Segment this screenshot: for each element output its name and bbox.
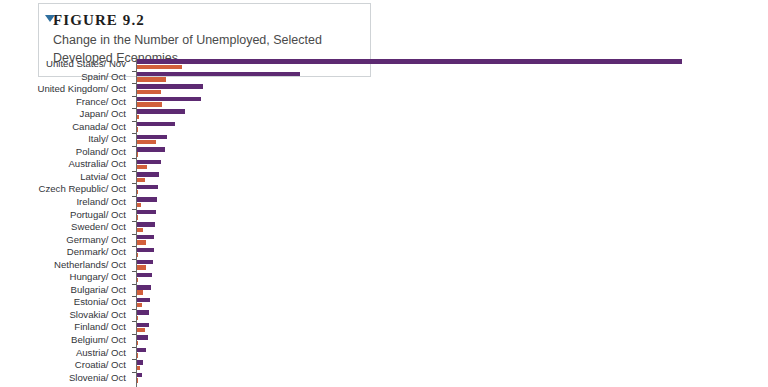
chart-row: Slovenia/ Oct <box>0 372 768 385</box>
bar-series-a <box>136 210 156 214</box>
category-label: Portugal/ Oct <box>0 209 132 222</box>
category-label: Australia/ Oct <box>0 158 132 171</box>
category-label: Latvia/ Oct <box>0 171 132 184</box>
bars-cell <box>136 158 768 171</box>
bars-cell <box>136 259 768 272</box>
bar-series-a <box>136 97 201 101</box>
bar-series-a <box>136 160 161 164</box>
category-label: Netherlands/ Oct <box>0 259 132 272</box>
bar-series-a <box>136 298 150 302</box>
bar-series-a <box>136 260 153 264</box>
bars-cell <box>136 309 768 322</box>
triangle-down-icon <box>45 15 55 22</box>
chart-row: Ireland/ Oct <box>0 196 768 209</box>
chart-row: Belgium/ Oct <box>0 334 768 347</box>
chart-rows: United States/ NovSpain/ OctUnited Kingd… <box>0 58 768 384</box>
chart-row: Poland/ Oct <box>0 146 768 159</box>
chart-row: Italy/ Oct <box>0 133 768 146</box>
bars-cell <box>136 284 768 297</box>
category-label: Japan/ Oct <box>0 108 132 121</box>
bar-series-a <box>136 135 167 139</box>
category-label: Denmark/ Oct <box>0 246 132 259</box>
category-label: Hungary/ Oct <box>0 271 132 284</box>
value-axis-line <box>136 58 137 387</box>
chart-row: Germany/ Oct <box>0 234 768 247</box>
category-label: Spain/ Oct <box>0 71 132 84</box>
chart-row: Slovakia/ Oct <box>0 309 768 322</box>
chart-row: Netherlands/ Oct <box>0 259 768 272</box>
chart-row: Austria/ Oct <box>0 347 768 360</box>
chart-row: Czech Republic/ Oct <box>0 183 768 196</box>
bars-cell <box>136 221 768 234</box>
bar-series-b <box>136 102 162 106</box>
bar-series-a <box>136 335 148 339</box>
bar-series-a <box>136 222 155 226</box>
bar-series-a <box>136 248 154 252</box>
bar-series-a <box>136 323 149 327</box>
bar-series-b <box>136 77 166 81</box>
category-label: Slovenia/ Oct <box>0 372 132 385</box>
category-label: Austria/ Oct <box>0 347 132 360</box>
category-label: Germany/ Oct <box>0 234 132 247</box>
category-label: Sweden/ Oct <box>0 221 132 234</box>
bars-cell <box>136 246 768 259</box>
bars-cell <box>136 296 768 309</box>
chart-row: Canada/ Oct <box>0 121 768 134</box>
category-label: Belgium/ Oct <box>0 334 132 347</box>
category-label: Ireland/ Oct <box>0 196 132 209</box>
bars-cell <box>136 183 768 196</box>
bar-series-a <box>136 273 152 277</box>
category-label: Estonia/ Oct <box>0 296 132 309</box>
bar-series-a <box>136 348 146 352</box>
chart-row: Finland/ Oct <box>0 321 768 334</box>
bars-cell <box>136 133 768 146</box>
bar-series-a <box>136 59 682 63</box>
category-label: United States/ Nov <box>0 58 132 71</box>
bar-series-a <box>136 185 158 189</box>
bar-chart: United States/ NovSpain/ OctUnited Kingd… <box>0 58 768 387</box>
bars-cell <box>136 209 768 222</box>
bar-series-b <box>136 165 147 169</box>
category-label: Italy/ Oct <box>0 133 132 146</box>
bars-cell <box>136 83 768 96</box>
bars-cell <box>136 359 768 372</box>
bar-series-a <box>136 147 165 151</box>
bars-cell <box>136 334 768 347</box>
category-label: Czech Republic/ Oct <box>0 183 132 196</box>
category-label: Bulgaria/ Oct <box>0 284 132 297</box>
bars-cell <box>136 372 768 385</box>
chart-row: United Kingdom/ Oct <box>0 83 768 96</box>
chart-row: Latvia/ Oct <box>0 171 768 184</box>
bars-cell <box>136 71 768 84</box>
bars-cell <box>136 196 768 209</box>
chart-row: Hungary/ Oct <box>0 271 768 284</box>
bars-cell <box>136 146 768 159</box>
category-label: France/ Oct <box>0 96 132 109</box>
chart-row: Australia/ Oct <box>0 158 768 171</box>
chart-row: Japan/ Oct <box>0 108 768 121</box>
bar-series-a <box>136 235 154 239</box>
bars-cell <box>136 108 768 121</box>
bars-cell <box>136 121 768 134</box>
bar-series-b <box>136 240 146 244</box>
chart-row: United States/ Nov <box>0 58 768 71</box>
bars-cell <box>136 234 768 247</box>
chart-row: Estonia/ Oct <box>0 296 768 309</box>
bar-series-a <box>136 310 149 314</box>
chart-row: Bulgaria/ Oct <box>0 284 768 297</box>
category-label: United Kingdom/ Oct <box>0 83 132 96</box>
chart-row: Croatia/ Oct <box>0 359 768 372</box>
category-label: Finland/ Oct <box>0 321 132 334</box>
category-label: Croatia/ Oct <box>0 359 132 372</box>
chart-row: Spain/ Oct <box>0 71 768 84</box>
bar-series-a <box>136 197 157 201</box>
bar-series-a <box>136 109 185 113</box>
bar-series-a <box>136 285 151 289</box>
bar-series-b <box>136 265 146 269</box>
bars-cell <box>136 58 768 71</box>
bar-series-b <box>136 65 182 69</box>
bar-series-a <box>136 72 300 76</box>
chart-row: France/ Oct <box>0 96 768 109</box>
bars-cell <box>136 171 768 184</box>
bars-cell <box>136 347 768 360</box>
